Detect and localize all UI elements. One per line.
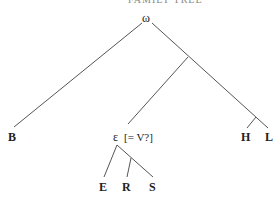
edge-junction-h <box>247 117 256 128</box>
node-h: H <box>241 131 250 143</box>
node-e: E <box>99 181 107 193</box>
node-b: B <box>8 131 16 143</box>
edge-junction-epsilon <box>128 57 188 124</box>
tree-diagram: FAMILY TREE ω B ε [= V?] H L E R S <box>0 0 280 197</box>
edge-omega-b <box>14 23 142 127</box>
node-l: L <box>265 131 273 143</box>
node-r: R <box>122 181 131 193</box>
node-omega: ω <box>142 12 150 24</box>
edge-junction-r <box>127 158 131 177</box>
edge-epsilon-e <box>104 145 117 177</box>
node-epsilon-annotation: [= V?] <box>124 131 153 143</box>
node-epsilon: ε <box>113 131 118 143</box>
edge-omega-l <box>152 23 268 128</box>
edge-epsilon-s <box>117 145 153 177</box>
tree-edges <box>0 0 280 197</box>
node-s: S <box>149 181 156 193</box>
